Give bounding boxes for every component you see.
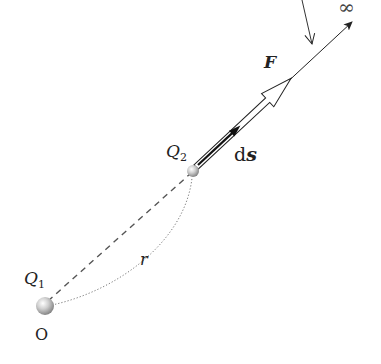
distance-dashed-line [48,174,190,301]
label-infinity: ∞ [338,0,355,19]
path-dotted-curve [52,178,192,305]
label-force: F [264,52,276,72]
label-q1: Q1 [24,268,45,291]
charge-q1-ball [36,297,54,315]
label-ds-d: d [234,143,246,165]
label-r: r [140,250,148,269]
label-origin: O [35,325,48,344]
label-q2-letter: Q [166,141,180,161]
incoming-path-arrow [302,0,312,44]
label-ds-s: s [246,143,257,165]
charge-q2-ball [187,165,199,177]
label-q1-letter: Q [24,268,38,288]
label-q2: Q2 [166,141,187,164]
label-q1-sub: 1 [38,278,45,291]
diagram-canvas [0,0,381,364]
label-ds: ds [234,143,257,165]
label-q2-sub: 2 [180,151,187,164]
work-diagram: Q1 O Q2 r ds F ∞ [0,0,381,364]
